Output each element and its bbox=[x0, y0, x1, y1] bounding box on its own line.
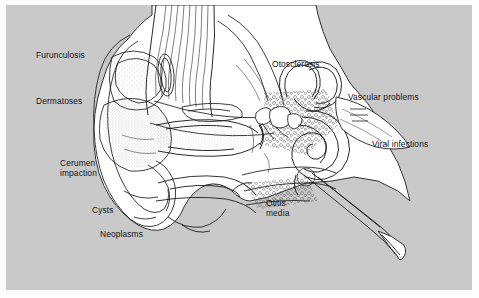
label-cysts: Cysts bbox=[92, 205, 114, 215]
label-cerumen-impaction: Cerumen impaction bbox=[60, 158, 97, 178]
figure-root: Furunculosis Dermatoses Cerumen impactio… bbox=[0, 0, 479, 298]
illustration-panel: Furunculosis Dermatoses Cerumen impactio… bbox=[6, 5, 472, 290]
eustachian-orifice-stipple bbox=[297, 168, 315, 186]
label-neoplasms: Neoplasms bbox=[100, 229, 143, 239]
label-vascular-problems: Vascular problems bbox=[348, 92, 419, 102]
label-furunculosis: Furunculosis bbox=[36, 50, 85, 60]
label-otitis-media: Otitis media bbox=[266, 198, 289, 218]
label-dermatoses: Dermatoses bbox=[36, 96, 82, 106]
label-otosclerosis: Otosclerosis bbox=[272, 59, 320, 69]
label-viral-infections: Viral infections bbox=[372, 139, 428, 149]
